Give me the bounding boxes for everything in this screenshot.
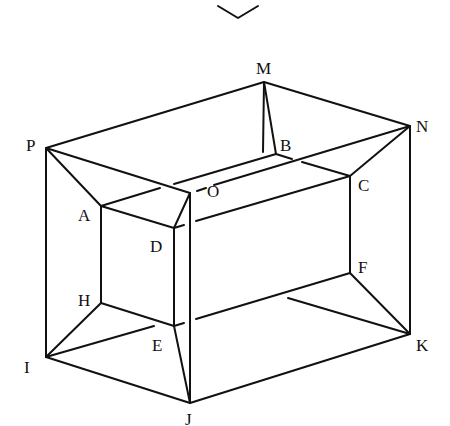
vertex-label-J: J bbox=[185, 411, 192, 426]
edge-OD bbox=[174, 193, 190, 228]
vertex-label-C: C bbox=[358, 177, 369, 194]
edge-JK bbox=[190, 334, 410, 403]
edge-AB-a bbox=[101, 188, 160, 206]
edge-M-vertical bbox=[263, 82, 264, 152]
vertex-label-P: P bbox=[26, 137, 35, 154]
edge-PM bbox=[46, 82, 264, 148]
vertex-label-H: H bbox=[78, 292, 90, 309]
vertex-label-O: O bbox=[207, 183, 219, 200]
edge-AB-b bbox=[174, 154, 276, 184]
vertex-label-D: D bbox=[150, 238, 162, 255]
edge-EF-b bbox=[196, 273, 350, 319]
chevron-down-icon bbox=[218, 6, 258, 18]
diagram-canvas: M N P B O C A D F H E K I J bbox=[0, 0, 450, 426]
vertex-label-I: I bbox=[24, 359, 30, 376]
edge-HE bbox=[101, 303, 174, 326]
prism-wireframe bbox=[0, 0, 450, 426]
edge-ON-a bbox=[197, 188, 206, 191]
edge-MB bbox=[264, 82, 276, 154]
edge-EF-a bbox=[174, 323, 184, 326]
edge-AD bbox=[101, 206, 174, 228]
vertex-label-K: K bbox=[416, 337, 428, 354]
vertex-label-N: N bbox=[416, 118, 428, 135]
vertex-label-B: B bbox=[280, 137, 291, 154]
edge-ON-b bbox=[214, 126, 410, 185]
edge-BC-b bbox=[302, 162, 350, 176]
vertex-label-A: A bbox=[78, 207, 90, 224]
edge-NC bbox=[350, 126, 410, 176]
edge-IJ bbox=[46, 357, 190, 403]
vertex-label-M: M bbox=[256, 60, 271, 77]
edge-MN bbox=[264, 82, 410, 126]
vertex-label-F: F bbox=[358, 259, 367, 276]
vertex-label-E: E bbox=[152, 337, 162, 354]
edge-EJ bbox=[174, 326, 190, 403]
